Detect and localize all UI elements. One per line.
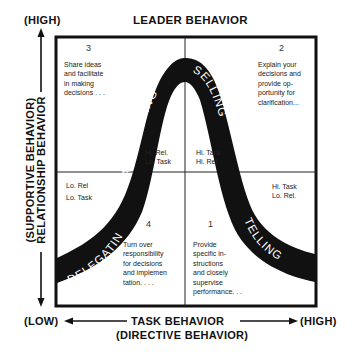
description-line: clarification... (258, 98, 301, 107)
description-line: specific in- (193, 249, 242, 258)
code-line: Hi. Rel. (145, 148, 171, 157)
x-axis-sublabel: (DIRECTIVE BEHAVIOR) (116, 329, 248, 341)
description-line: tation. . . . (123, 278, 167, 287)
x-axis-high-label: (HIGH) (300, 315, 337, 327)
description-line: and facilitate (64, 69, 105, 78)
quadrant-4-code: Lo. Rel Lo. Task (66, 180, 92, 203)
quadrant-1-code: Hi. Task Lo. Rel. (272, 182, 297, 201)
description-line: provide op- (258, 79, 301, 88)
x-axis-low-label: (LOW) (24, 315, 58, 327)
x-axis-arrow-right (240, 318, 298, 325)
description-line: structions (193, 259, 242, 268)
description-line: in making (64, 79, 105, 88)
description-line: Share ideas (64, 60, 105, 69)
situational-leadership-diagram: DELEGATING PARTICIPATING SELLING TELLING (0, 0, 356, 358)
quadrant-2-code: Hi. Task Hi. Rel. (196, 148, 221, 167)
description-line: Turn over (123, 240, 167, 249)
quadrant-4-description: Turn over responsibility for decisions a… (123, 240, 167, 287)
quadrant-3-code: Hi. Rel. Lo. Task (145, 148, 171, 167)
code-line: Hi. Task (196, 148, 221, 157)
quadrant-2-number: 2 (279, 43, 284, 53)
description-line: decisions and (258, 69, 301, 78)
code-line: Hi. Task (272, 182, 297, 191)
quadrant-3-number: 3 (86, 43, 91, 53)
description-line: decisions . . . (64, 88, 105, 97)
code-line: Lo. Rel (66, 180, 92, 192)
description-line: responsibility (123, 249, 167, 258)
code-line: Lo. Task (66, 192, 92, 204)
quadrant-1-description: Provide specific in- structions and clos… (193, 240, 242, 296)
quadrant-3-description: Share ideas and facilitate in making dec… (64, 60, 105, 98)
description-line: Explain your (258, 60, 301, 69)
description-line: supervise (193, 278, 242, 287)
x-axis-arrow-left (64, 318, 127, 325)
quadrant-1-number: 1 (208, 219, 213, 229)
description-line: and closely (193, 268, 242, 277)
y-axis-arrow-up (38, 28, 45, 92)
quadrant-2-description: Explain your decisions and provide op- p… (258, 60, 301, 107)
description-line: for decisions (123, 259, 167, 268)
y-axis-arrow-down (38, 252, 45, 307)
curve-label-delegating: DELEGATING (0, 0, 125, 286)
code-line: Lo. Rel. (272, 191, 297, 200)
description-line: performance. . . (193, 287, 242, 296)
quadrant-4-number: 4 (146, 219, 151, 229)
description-line: portunity for (258, 88, 301, 97)
description-line: Provide (193, 240, 242, 249)
x-axis-label: TASK BEHAVIOR (131, 315, 224, 327)
description-line: and implemen (123, 268, 167, 277)
code-line: Lo. Task (145, 157, 171, 166)
code-line: Hi. Rel. (196, 157, 221, 166)
y-axis-label: RELATIONSHIP BEHAVIOR (35, 95, 47, 245)
